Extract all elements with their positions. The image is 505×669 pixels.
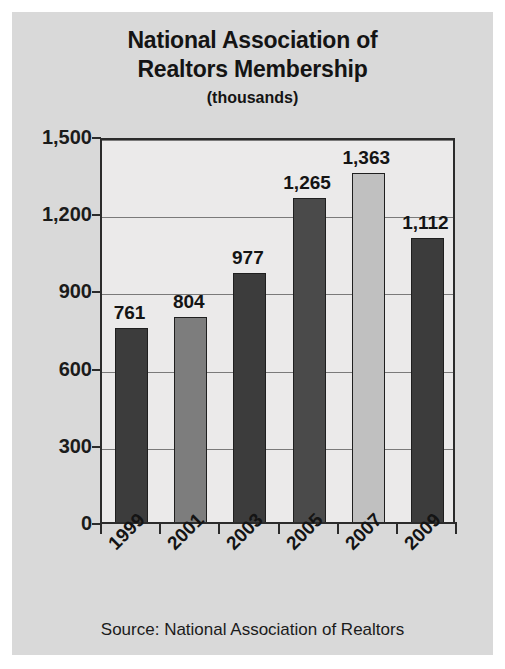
bar-2005 [293,198,326,524]
plot-area [100,138,455,524]
chart-title-line-2: Realtors Membership [12,55,493,84]
x-axis-tick-mark-end [455,524,457,534]
bar-2009 [411,238,444,524]
x-axis-tick-mark-1999 [100,524,102,534]
bar-value-label-2001: 804 [154,291,224,313]
source-note: Source: National Association of Realtors [12,620,493,640]
chart-title-block: National Association of Realtors Members… [12,26,493,110]
x-axis-tick-mark-2009 [396,524,398,534]
chart-figure: National Association of Realtors Members… [12,12,493,655]
y-axis-tick-label-1200: 1,200 [18,203,92,226]
y-axis-tick-label-0: 0 [18,512,92,535]
bar-1999 [115,328,148,524]
gridline-600 [102,372,453,373]
bar-value-label-2005: 1,265 [272,172,342,194]
x-axis-tick-mark-2007 [337,524,339,534]
x-axis-tick-mark-2001 [159,524,161,534]
y-axis-tick-label-300: 300 [18,435,92,458]
y-axis-tick-label-600: 600 [18,358,92,381]
chart-title-line-1: National Association of [12,26,493,55]
x-axis-tick-mark-2005 [278,524,280,534]
y-axis-tick-label-900: 900 [18,280,92,303]
bar-2007 [352,173,385,524]
bar-2003 [233,273,266,524]
bar-value-label-2007: 1,363 [331,147,401,169]
bar-value-label-2003: 977 [213,247,283,269]
gridline-1500 [102,140,453,141]
bar-value-label-2009: 1,112 [390,212,460,234]
chart-subtitle: (thousands) [12,86,493,110]
x-axis-tick-mark-2003 [218,524,220,534]
y-axis-labels: 03006009001,2001,500 [12,138,92,524]
gridline-300 [102,449,453,450]
y-axis-tick-label-1500: 1,500 [18,126,92,149]
bar-2001 [174,317,207,524]
